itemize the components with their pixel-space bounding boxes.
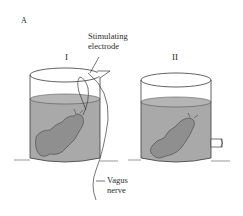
beaker-i bbox=[14, 68, 118, 162]
nerve-label-line1: Vagus bbox=[107, 176, 128, 185]
electrode-label-line1: Stimulating bbox=[88, 32, 128, 41]
beaker-ii bbox=[128, 73, 230, 162]
beaker-i-label: I bbox=[65, 53, 68, 62]
electrode-label-line2: electrode bbox=[88, 42, 119, 51]
beaker-ii-label: II bbox=[172, 53, 178, 62]
panel-label: A bbox=[21, 16, 27, 25]
nerve-label-line2: nerve bbox=[107, 186, 126, 195]
outlet-tube bbox=[211, 139, 222, 147]
